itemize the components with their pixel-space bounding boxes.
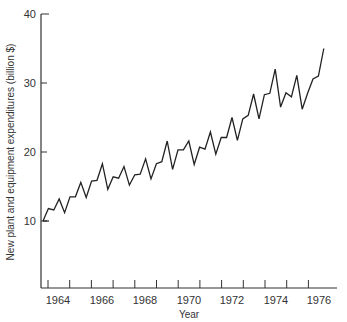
x-tick-label: 1970	[177, 294, 201, 306]
x-tick-label: 1966	[90, 294, 114, 306]
x-tick-label: 1974	[264, 294, 288, 306]
x-tick-label: 1964	[46, 294, 70, 306]
y-tick-label: 40	[24, 8, 36, 20]
y-ticks	[41, 14, 49, 221]
y-tick-label: 30	[24, 77, 36, 89]
x-axis-title: Year	[179, 309, 200, 320]
y-tick-label: 10	[24, 215, 36, 227]
x-tick-label: 1976	[307, 294, 331, 306]
y-axis-title: New plant and equipment expenditures (bi…	[5, 44, 16, 261]
line-chart: 40 30 20 10 1964 1966 1968 1970 1972 197…	[0, 0, 347, 322]
data-line	[43, 49, 324, 222]
x-ticks	[48, 280, 308, 288]
x-tick-label: 1968	[133, 294, 157, 306]
y-tick-labels: 40 30 20 10	[24, 8, 36, 227]
x-tick-labels: 1964 1966 1968 1970 1972 1974 1976	[46, 294, 331, 306]
y-tick-label: 20	[24, 146, 36, 158]
x-tick-label: 1972	[220, 294, 244, 306]
